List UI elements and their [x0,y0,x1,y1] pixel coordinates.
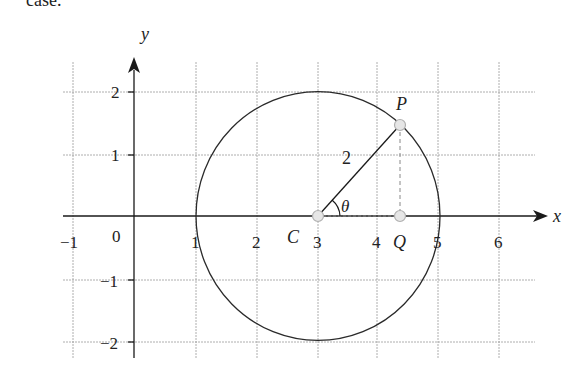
x-tick-6: 6 [494,233,503,252]
point-q [395,211,406,222]
radius-label: 2 [342,148,351,168]
point-p [395,120,406,131]
x-tick-1: 1 [191,233,200,252]
angle-arc [332,200,340,216]
x-tick-0: 0 [112,227,121,246]
label-p: P [395,94,407,114]
y-tick-neg2: −2 [100,334,118,353]
point-c [313,211,324,222]
x-tick-4: 4 [372,233,381,252]
radius-line [318,125,400,216]
x-axis-label: x [552,206,561,226]
label-q: Q [393,232,406,252]
y-tick-2: 2 [111,83,120,102]
angle-label: θ [341,197,349,216]
label-c: C [287,227,300,247]
axes [63,70,540,358]
y-tick-1: 1 [111,146,120,165]
x-tick-5: 5 [433,233,442,252]
x-tick-neg1: −1 [60,233,78,252]
y-axis-label: y [139,24,149,44]
coordinate-diagram: y x −1 0 1 2 3 4 5 6 2 1 −1 −2 C Q P 2 θ [0,0,585,372]
y-tick-neg1: −1 [100,272,118,291]
x-tick-3: 3 [313,233,322,252]
x-tick-2: 2 [252,233,261,252]
